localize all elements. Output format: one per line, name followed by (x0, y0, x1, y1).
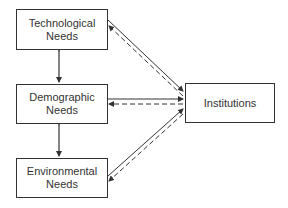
technological-needs-node: Technological Needs (16, 9, 108, 50)
node-label: Institutions (204, 97, 257, 110)
node-label: Needs (27, 178, 97, 191)
node-label: Technological (29, 17, 96, 30)
inst-to-tech-arrow (109, 26, 183, 96)
node-label: Environmental (27, 165, 97, 178)
node-label: Needs (29, 30, 96, 43)
tech-to-inst-arrow (108, 20, 183, 91)
node-label: Demographic (29, 91, 94, 104)
demographic-needs-node: Demographic Needs (16, 84, 108, 124)
node-label: Needs (29, 104, 94, 117)
env-to-inst-arrow (108, 109, 183, 176)
inst-to-env-arrow (109, 114, 183, 181)
environmental-needs-node: Environmental Needs (16, 158, 108, 198)
institutions-node: Institutions (185, 83, 275, 123)
